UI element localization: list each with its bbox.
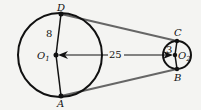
label-radius-small: 3 [166, 44, 172, 55]
radius-o1-a [56, 55, 61, 96]
label-d: D [56, 2, 65, 13]
radius-o1-d [56, 14, 61, 55]
label-o2: O2 [178, 50, 191, 63]
label-b: B [173, 72, 181, 83]
point-o1 [54, 53, 59, 58]
point-c [175, 39, 179, 43]
point-b [175, 67, 179, 71]
label-radius-large: 8 [46, 28, 52, 39]
circles-tangent-diagram: D A 8 O1 25 C B 3 O2 [0, 0, 201, 110]
point-o2 [173, 53, 177, 57]
label-a: A [56, 98, 64, 109]
label-center-distance: 25 [109, 49, 122, 60]
label-c: C [174, 27, 182, 38]
label-o1: O1 [37, 50, 50, 63]
